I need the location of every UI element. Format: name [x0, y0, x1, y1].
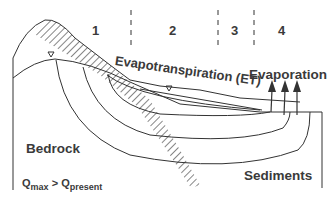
- zone-label-1: 1: [92, 24, 99, 37]
- zone-label-4: 4: [278, 24, 285, 37]
- groundwater-flow-diagram: 1 2 3 4 Evapotranspiration (ET) Evaporat…: [0, 0, 332, 198]
- perched-water-line: [140, 89, 262, 110]
- zone-label-3: 3: [231, 24, 238, 37]
- q-symbol: Q: [22, 177, 31, 189]
- bedrock-surface-hatch: [33, 21, 200, 189]
- sediments-label: Sediments: [244, 169, 312, 183]
- q-subscript-present: present: [70, 182, 103, 192]
- greater-than-operator: >: [49, 177, 62, 189]
- water-table-marker-icon: [48, 52, 54, 57]
- evaporation-label: Evaporation: [249, 68, 327, 82]
- discharge-comparison-label: Qmax > Qpresent: [22, 178, 102, 192]
- q-symbol: Q: [61, 177, 70, 189]
- q-subscript-max: max: [31, 182, 49, 192]
- evaporation-arrows: [268, 80, 301, 115]
- zone-label-2: 2: [169, 24, 176, 37]
- bedrock-label: Bedrock: [26, 142, 80, 156]
